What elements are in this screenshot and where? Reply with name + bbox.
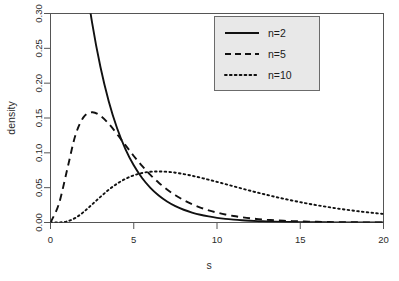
x-tick-label: 15: [295, 234, 306, 245]
y-tick-label: 0.20: [33, 74, 44, 93]
x-tick-label: 10: [212, 234, 223, 245]
legend: n=2n=5n=10: [215, 17, 320, 91]
y-tick-label: 0.25: [33, 39, 44, 58]
x-tick-label: 0: [48, 234, 53, 245]
x-tick-label: 20: [378, 234, 389, 245]
x-tick-label: 5: [131, 234, 136, 245]
y-axis-title-text: density: [5, 101, 17, 135]
x-axis-title-text: s: [206, 259, 211, 271]
y-tick-label: 0.15: [33, 109, 44, 128]
x-axis-title: s: [206, 259, 211, 271]
y-tick-label: 0.10: [33, 144, 44, 163]
legend-label-n-10: n=10: [268, 69, 292, 81]
plot-background: [0, 0, 399, 281]
y-tick-label: 0.00: [33, 213, 44, 232]
y-axis-title: density: [5, 101, 17, 135]
legend-label-n-5: n=5: [268, 48, 286, 60]
legend-label-n-2: n=2: [268, 27, 286, 39]
chart-figure: 0.000.050.100.150.200.250.30 05101520 de…: [0, 0, 399, 281]
density-plot: 0.000.050.100.150.200.250.30 05101520 de…: [0, 0, 399, 281]
y-tick-label: 0.30: [33, 4, 44, 23]
y-tick-label: 0.05: [33, 178, 44, 197]
